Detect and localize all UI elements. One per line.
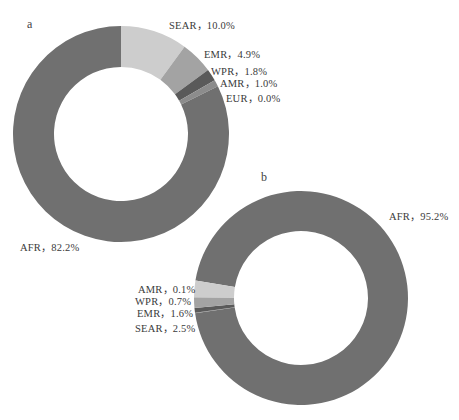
panel-label-a: a <box>27 17 32 32</box>
donut-chart-a <box>13 26 229 242</box>
panel-label-b: b <box>261 170 267 185</box>
label-a-sear: SEAR，10.0% <box>169 17 235 32</box>
donut-chart-b <box>194 191 408 405</box>
label-a-afr: AFR，82.2% <box>20 239 79 254</box>
label-b-sear: SEAR，2.5% <box>135 320 196 335</box>
label-a-eur: EUR，0.0% <box>226 90 280 105</box>
label-a-emr: EMR，4.9% <box>204 46 260 61</box>
label-a-amr: AMR，1.0% <box>220 75 277 90</box>
label-b-emr: EMR，1.6% <box>137 305 193 320</box>
label-b-afr: AFR，95.2% <box>389 208 448 223</box>
